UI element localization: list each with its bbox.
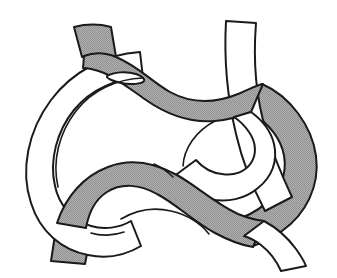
- knot-figure-container: [0, 0, 337, 278]
- knotted-ribbon-illustration: [0, 0, 337, 278]
- shaded-strand-top-left-tail: [74, 25, 116, 57]
